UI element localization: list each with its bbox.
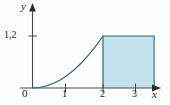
- origin-label: 0: [22, 88, 28, 99]
- y-axis-arrowhead: [29, 3, 36, 12]
- x-tick-label-1: 1: [62, 89, 67, 99]
- y-tick-label-1-2: 1,2: [4, 30, 17, 40]
- x-tick-label-2: 2: [100, 89, 105, 99]
- shaded-region-fill: [103, 36, 154, 88]
- y-axis-label: y: [21, 1, 26, 12]
- function-curve: [33, 36, 104, 88]
- graph-figure: y x 0 1,2 1 2 3: [0, 0, 170, 105]
- x-tick-label-3: 3: [132, 89, 137, 99]
- x-axis-label: x: [152, 89, 157, 100]
